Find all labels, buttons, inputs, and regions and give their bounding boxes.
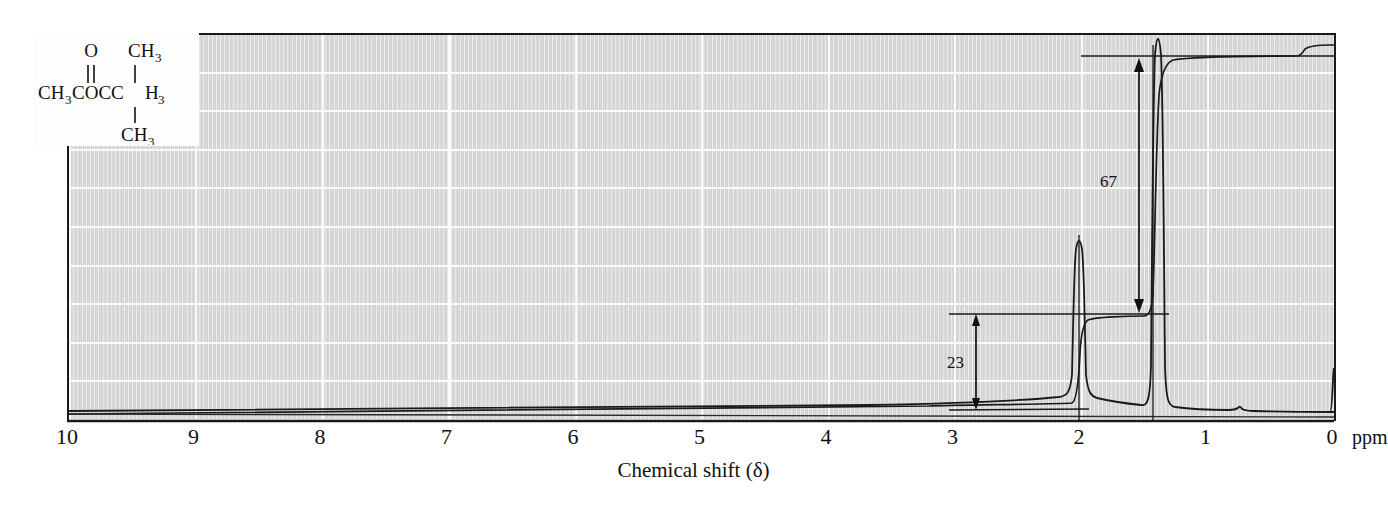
- x-tick-5: 5: [694, 424, 705, 450]
- x-tick-1: 1: [1200, 424, 1211, 450]
- x-tick-3: 3: [947, 424, 958, 450]
- spectrum-traces: [69, 35, 1334, 421]
- tms-peak: [1330, 368, 1334, 412]
- x-tick-8: 8: [315, 424, 326, 450]
- backbone-left-subscript: 3: [65, 92, 72, 107]
- x-axis-title-prefix: Chemical shift (: [617, 458, 752, 482]
- integral-23-lower-guide: [949, 409, 1089, 410]
- baseline-line-upper: [69, 414, 1334, 417]
- x-tick-2: 2: [1074, 424, 1085, 450]
- x-tick-7: 7: [441, 424, 452, 450]
- integral-23-arrow: [972, 314, 980, 410]
- carbonyl-oxygen-label: O: [84, 40, 98, 61]
- top-methyl-label: CH: [128, 40, 155, 61]
- x-tick-0: 0: [1327, 424, 1338, 450]
- x-tick-9: 9: [188, 424, 199, 450]
- integration-value-23: 23: [947, 353, 964, 373]
- spectrum-plot-area: [67, 33, 1336, 421]
- backbone-left-methyl: CH: [38, 82, 65, 103]
- integral-67-arrow: [1134, 58, 1144, 313]
- top-methyl-subscript: 3: [155, 50, 162, 65]
- backbone-right-h: H: [145, 82, 159, 103]
- bottom-methyl-label: CH: [121, 124, 148, 145]
- pinacolone-skeletal-formula: O CH 3 CH 3 COCC H 3 CH 3: [36, 35, 196, 145]
- molecular-structure-inset: O CH 3 CH 3 COCC H 3 CH 3: [33, 33, 199, 146]
- bottom-methyl-subscript: 3: [148, 134, 155, 145]
- backbone-core: COCC: [72, 82, 124, 103]
- x-axis-line: [67, 419, 1334, 423]
- integration-trace: [69, 45, 1334, 414]
- x-tick-6: 6: [568, 424, 579, 450]
- integration-value-67: 67: [1100, 172, 1117, 192]
- backbone-right-subscript: 3: [158, 92, 165, 107]
- x-axis-title: Chemical shift (δ): [0, 458, 1387, 483]
- x-axis-title-suffix: ): [763, 458, 770, 482]
- x-tick-4: 4: [821, 424, 832, 450]
- spectrum-trace: [69, 39, 1334, 412]
- ppm-units-label: ppm: [1352, 426, 1388, 449]
- x-tick-10: 10: [56, 424, 78, 450]
- x-axis-title-delta: δ: [753, 458, 763, 482]
